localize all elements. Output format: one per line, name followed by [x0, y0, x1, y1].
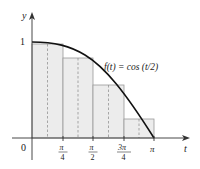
x-tick-pi4-num: π	[60, 143, 65, 152]
x-tick-0: 0	[21, 142, 26, 153]
x-tick-3pi4-den: 4	[122, 153, 126, 162]
x-tick-pi2-den: 2	[91, 153, 95, 162]
midpoint-rectangles	[32, 44, 154, 138]
x-tick-pi4-den: 4	[61, 153, 65, 162]
function-label: f(t) = cos (t/2)	[104, 62, 158, 73]
x-tick-pi: π	[150, 144, 155, 154]
t-axis-label: t	[184, 143, 187, 154]
riemann-sum-chart: y 1 f(t) = cos (t/2) 0 π 4 π 2 3π 4 π t	[0, 0, 200, 169]
x-tick-3pi4-num: 3π	[117, 143, 127, 152]
y-tick-1: 1	[20, 36, 25, 47]
x-tick-pi2-num: π	[90, 143, 95, 152]
y-axis-label: y	[21, 10, 27, 21]
